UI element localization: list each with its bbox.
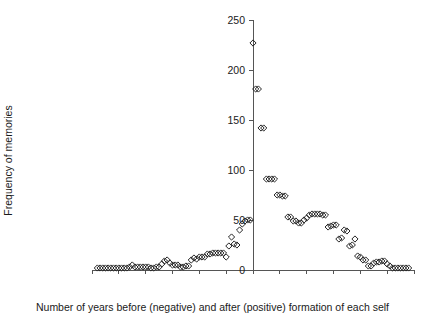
y-tick-label: 150 <box>227 114 245 126</box>
x-tick-label: -60 <box>84 277 99 278</box>
x-tick-label: -20 <box>192 277 207 278</box>
y-tick-label: 250 <box>227 14 245 26</box>
x-tick-label: 40 <box>354 277 366 278</box>
x-tick-label: 0 <box>250 277 256 278</box>
data-point <box>352 236 358 242</box>
data-point <box>223 254 229 260</box>
x-tick-label: 50 <box>381 277 393 278</box>
chart-figure: Frequency of memories -60-50-40-30-20-10… <box>0 0 425 321</box>
x-tick-label: 30 <box>328 277 340 278</box>
y-tick-label: 200 <box>227 64 245 76</box>
data-point <box>236 227 242 233</box>
x-tick-label: -50 <box>111 277 126 278</box>
y-tick-label: 100 <box>227 164 245 176</box>
y-axis-label: Frequency of memories <box>0 0 16 321</box>
x-tick-label: -10 <box>219 277 234 278</box>
plot-area: -60-50-40-30-20-100102030405060050100150… <box>30 8 415 278</box>
scatter-plot-svg: -60-50-40-30-20-100102030405060050100150… <box>30 8 415 278</box>
x-tick-label: -30 <box>165 277 180 278</box>
data-point <box>228 234 234 240</box>
x-tick-label: 60 <box>408 277 415 278</box>
y-tick-label: 0 <box>239 264 245 276</box>
x-axis-label: Number of years before (negative) and af… <box>0 301 425 313</box>
x-tick-label: 20 <box>301 277 313 278</box>
x-tick-label: -40 <box>138 277 153 278</box>
x-tick-label: 10 <box>274 277 286 278</box>
